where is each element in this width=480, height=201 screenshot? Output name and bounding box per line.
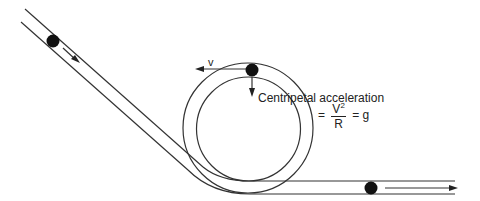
incline-lower-rail — [21, 22, 188, 170]
denominator: R — [334, 117, 343, 130]
equation-equals: = — [318, 108, 325, 122]
incline-upper-rail — [25, 9, 203, 167]
velocity-arrow — [195, 66, 246, 72]
loop-outer-rail — [183, 63, 313, 193]
numerator-exponent: 2 — [340, 101, 344, 110]
ball-incline — [47, 35, 60, 48]
ball-flat — [365, 182, 378, 195]
loop-diagram — [0, 0, 480, 201]
v-squared-over-r: V2 R — [331, 102, 345, 130]
ball-top-of-loop — [246, 64, 259, 77]
centripetal-equation: = V2 R = g — [318, 102, 369, 130]
centripetal-arrow — [249, 77, 255, 97]
incline-to-flat-lower — [188, 170, 250, 194]
velocity-label: v — [208, 56, 214, 68]
flat-direction-arrow — [385, 185, 458, 191]
incline-to-flat-upper — [203, 167, 250, 181]
equation-result: = g — [352, 108, 369, 122]
